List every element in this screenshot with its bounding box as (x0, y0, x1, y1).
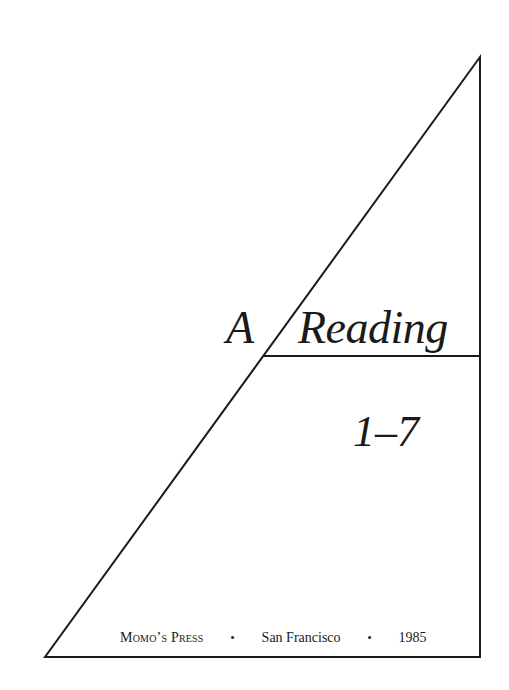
bullet-separator: • (204, 630, 262, 646)
imprint-line: Momo’s Press • San Francisco • 1985 (120, 630, 427, 646)
publisher-city: San Francisco (262, 630, 341, 646)
publication-year: 1985 (399, 630, 427, 646)
bullet-separator: • (341, 630, 399, 646)
publisher-name: Momo’s Press (120, 630, 204, 646)
subtitle-numbers: 1–7 (353, 410, 419, 454)
title-word-reading: Reading (298, 305, 448, 351)
title-page: A Reading 1–7 Momo’s Press • San Francis… (0, 0, 509, 690)
title-word-a: A (226, 305, 254, 351)
